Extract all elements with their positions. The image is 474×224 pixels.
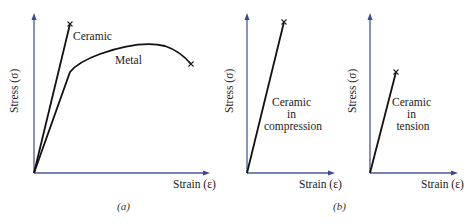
x-axis-arrow-icon [328, 171, 335, 176]
panel-b-tension: Ceramic in tension Stress (σ) Strain (ε) [346, 13, 464, 191]
ceramic-tension-label: Ceramic in tension [392, 96, 434, 132]
y-axis-label: Stress (σ) [8, 69, 21, 113]
x-axis-label: Strain (ε) [421, 178, 464, 191]
fracture-x-icon [189, 62, 194, 67]
panel-a: Ceramic Metal Stress (σ) Strain (ε) (a) [8, 13, 216, 213]
ceramic-tension-curve [370, 72, 396, 173]
y-axis-arrow-icon [245, 13, 250, 20]
ceramic-curve [34, 24, 70, 173]
x-axis-arrow-icon [451, 171, 458, 176]
ceramic-compression-label: Ceramic in compression [264, 96, 322, 133]
x-axis-arrow-icon [203, 171, 210, 176]
ceramic-label: Ceramic [73, 30, 112, 42]
y-axis-label: Stress (σ) [223, 69, 236, 113]
y-axis-arrow-icon [32, 13, 37, 20]
metal-curve [34, 44, 191, 173]
caption-a: (a) [117, 200, 130, 213]
metal-label: Metal [115, 54, 142, 66]
x-axis-label: Strain (ε) [299, 178, 342, 191]
caption-b: (b) [333, 200, 346, 213]
y-axis-arrow-icon [368, 13, 373, 20]
panel-b-compression: Ceramic in compression Stress (σ) Strain… [223, 13, 342, 191]
y-axis-label: Stress (σ) [346, 69, 359, 113]
x-axis-label: Strain (ε) [173, 178, 216, 191]
stress-strain-figure: Ceramic Metal Stress (σ) Strain (ε) (a) … [0, 0, 474, 224]
